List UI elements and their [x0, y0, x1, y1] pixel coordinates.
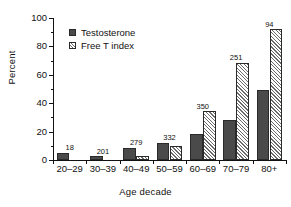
- x-tick-label: 20–29: [56, 164, 82, 174]
- y-tick-label-40: 40: [36, 98, 47, 108]
- group-sample-size: 251: [230, 54, 243, 62]
- legend-label-testosterone: Testosterone: [81, 28, 135, 38]
- x-tick: [86, 160, 87, 164]
- x-tick: [153, 160, 154, 164]
- y-tick-label-80: 80: [36, 42, 47, 52]
- x-tick: [219, 160, 220, 164]
- y-axis-title: Percent: [6, 28, 17, 108]
- x-tick: [186, 160, 187, 164]
- x-tick-label: 30–39: [90, 164, 116, 174]
- y-tick-label-20: 20: [36, 127, 47, 137]
- bar-testosterone: [90, 156, 103, 160]
- x-tick-label: 80+: [261, 164, 277, 174]
- bar-group: 332: [153, 18, 186, 160]
- x-tick-label: 60–69: [190, 164, 216, 174]
- bar-free-t-index: [136, 156, 149, 160]
- bar-testosterone: [57, 153, 70, 160]
- bar-chart-figure: Percent 0204060801001820127933235025194 …: [0, 0, 291, 207]
- x-tick: [253, 160, 254, 164]
- bar-testosterone: [190, 134, 203, 160]
- y-tick-label-60: 60: [36, 70, 47, 80]
- legend-label-free-t-index: Free T index: [81, 41, 134, 51]
- bar-group: 94: [253, 18, 286, 160]
- chart-legend: Testosterone Free T index: [69, 26, 135, 52]
- x-axis-title: Age decade: [0, 186, 291, 197]
- bar-testosterone: [257, 90, 270, 160]
- bar-testosterone: [157, 143, 170, 160]
- legend-item-testosterone: Testosterone: [69, 26, 135, 39]
- group-sample-size: 201: [97, 148, 110, 156]
- bar-testosterone: [223, 120, 236, 160]
- bar-free-t-index: [236, 63, 249, 160]
- y-tick-label-0: 0: [42, 155, 47, 165]
- bar-testosterone: [123, 148, 136, 160]
- group-sample-size: 18: [65, 144, 73, 152]
- x-tick-label: 70–79: [223, 164, 249, 174]
- x-tick-label: 40–49: [123, 164, 149, 174]
- bar-group: 350: [186, 18, 219, 160]
- group-sample-size: 94: [265, 21, 273, 29]
- group-sample-size: 332: [163, 134, 176, 142]
- legend-swatch-free-t-index: [69, 42, 76, 49]
- bar-free-t-index: [203, 111, 216, 160]
- x-tick: [120, 160, 121, 164]
- bar-group: 251: [219, 18, 252, 160]
- group-sample-size: 279: [130, 139, 143, 147]
- bar-free-t-index: [270, 29, 283, 160]
- legend-item-free-t-index: Free T index: [69, 39, 135, 52]
- group-sample-size: 350: [197, 103, 210, 111]
- x-tick: [286, 160, 287, 164]
- x-tick-label: 50–59: [156, 164, 182, 174]
- legend-swatch-testosterone: [69, 29, 76, 36]
- bar-free-t-index: [170, 146, 183, 160]
- y-tick-label-100: 100: [31, 13, 47, 23]
- x-tick: [53, 160, 54, 164]
